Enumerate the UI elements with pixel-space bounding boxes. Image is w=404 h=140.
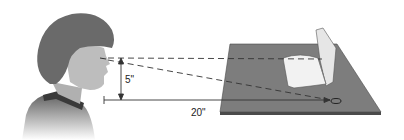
viewing-distance-diagram bbox=[0, 0, 404, 140]
diagram-canvas: 5" 20" bbox=[0, 0, 404, 140]
height-dimension-label: 5" bbox=[125, 74, 134, 85]
table-edge bbox=[220, 112, 381, 115]
person-figure bbox=[22, 13, 114, 140]
distance-dimension-label: 20" bbox=[191, 107, 206, 118]
book-on-stand bbox=[283, 28, 336, 88]
